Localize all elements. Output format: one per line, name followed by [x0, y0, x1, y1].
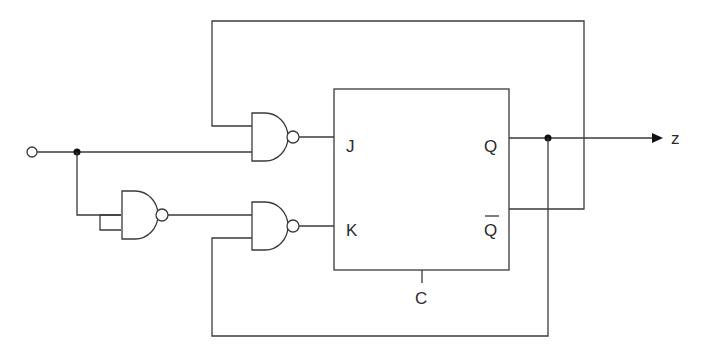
j-label: J — [346, 137, 355, 156]
q-label: Q — [484, 137, 497, 156]
nand-gate-k — [252, 202, 299, 250]
input-terminal — [27, 147, 37, 157]
circuit-diagram: J K Q Q C z — [0, 0, 701, 353]
clock-label: C — [415, 289, 427, 308]
qbar-label: Q — [484, 221, 497, 240]
k-label: K — [346, 221, 358, 240]
jk-flipflop-box — [334, 89, 509, 270]
nand-gate-inverter — [122, 191, 168, 239]
inverter-tie-wire — [100, 215, 121, 230]
output-arrow-icon — [652, 133, 663, 143]
branch-wire — [77, 152, 121, 215]
nand-gate-j — [252, 113, 299, 161]
output-z-label: z — [671, 129, 680, 148]
